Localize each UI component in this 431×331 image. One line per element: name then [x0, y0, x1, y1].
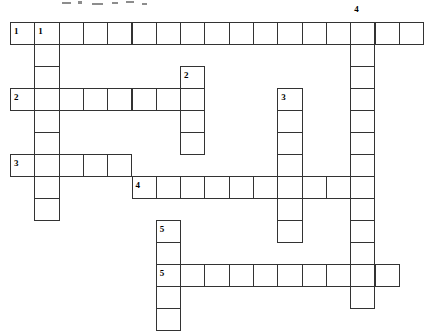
crossword-letters	[0, 0, 431, 326]
crossword-puzzle: 1142233455	[0, 0, 431, 326]
